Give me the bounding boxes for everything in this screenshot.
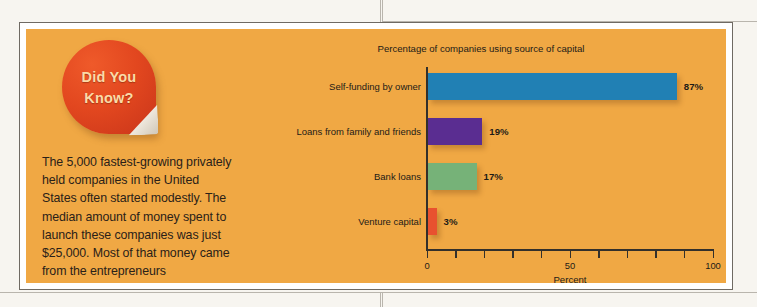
bar-category-label: Bank loans	[374, 171, 421, 182]
bar	[428, 118, 482, 145]
page-gutter-line-bottom-right	[382, 292, 383, 307]
bar-value-label: 87%	[684, 81, 703, 92]
x-axis-tick	[684, 251, 686, 258]
page-rule-bottom	[0, 292, 757, 293]
bar	[428, 208, 437, 235]
did-you-know-badge: Did You Know?	[62, 40, 156, 134]
figure-panel: Did You Know? The 5,000 fastest-growing …	[26, 29, 726, 283]
scanned-page: Did You Know? The 5,000 fastest-growing …	[0, 0, 757, 307]
x-axis-tick-label: 0	[424, 260, 429, 271]
figure-frame: Did You Know? The 5,000 fastest-growing …	[19, 22, 733, 290]
x-axis-tick-label: 50	[565, 260, 575, 271]
page-gutter-line-top-right	[382, 0, 383, 22]
did-you-know-callout: Did You Know? The 5,000 fastest-growing …	[26, 29, 241, 283]
bar-chart: Percentage of companies using source of …	[241, 29, 726, 283]
x-axis-tick	[713, 251, 715, 258]
badge-circle-shape	[62, 40, 156, 134]
x-axis-tick	[570, 251, 572, 258]
chart-title: Percentage of companies using source of …	[241, 43, 721, 54]
bar	[428, 73, 677, 100]
footnote-marker: 60	[107, 282, 115, 283]
bar	[428, 163, 477, 190]
x-axis-tick	[541, 251, 543, 258]
x-axis-tick	[427, 251, 429, 258]
page-gutter-line-top-left	[380, 0, 381, 22]
bar-value-label: 3%	[444, 216, 458, 227]
x-axis-title: Percent	[426, 274, 714, 283]
callout-body: The 5,000 fastest-growing privately held…	[42, 153, 232, 283]
bar-category-label: Venture capital	[358, 216, 421, 227]
x-axis-tick	[598, 251, 600, 258]
bar-value-label: 17%	[484, 171, 503, 182]
page-gutter-line-bottom-left	[380, 292, 381, 307]
x-axis-tick	[512, 251, 514, 258]
x-axis-tick	[484, 251, 486, 258]
x-axis-tick	[627, 251, 629, 258]
x-axis-tick	[455, 251, 457, 258]
bar-category-label: Loans from family and friends	[296, 126, 421, 137]
x-axis-tick	[655, 251, 657, 258]
chart-plot-area: Percent 050100Self-funding by owner87%Lo…	[241, 63, 726, 273]
x-axis-tick-label: 100	[705, 260, 721, 271]
callout-body-text: The 5,000 fastest-growing privately held…	[42, 155, 231, 283]
bar-value-label: 19%	[489, 126, 508, 137]
bar-category-label: Self-funding by owner	[329, 81, 421, 92]
